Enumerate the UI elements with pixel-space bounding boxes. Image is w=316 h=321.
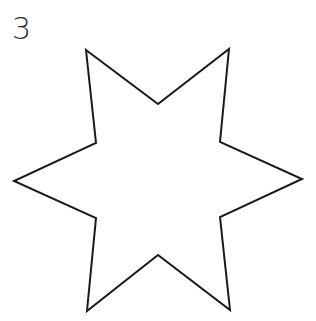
star-diagram [0, 0, 316, 321]
six-pointed-star-shape [14, 49, 302, 311]
